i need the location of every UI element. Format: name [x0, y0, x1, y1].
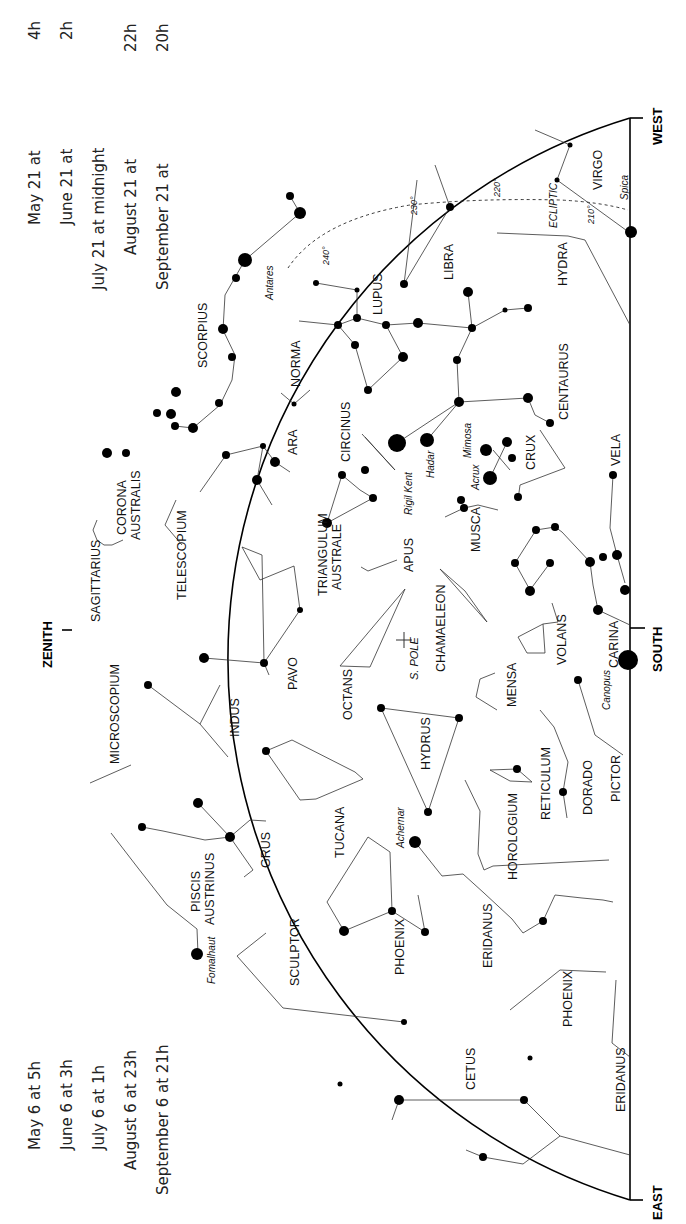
svg-text:June 21 at: June 21 at	[58, 149, 76, 226]
label-grus: GRUS	[259, 832, 273, 868]
star-hadar: Hadar	[425, 450, 436, 478]
label-telescopium: TELESCOPIUM	[175, 510, 189, 600]
south-label: SOUTH	[650, 627, 665, 673]
label-lupus: LUPUS	[371, 273, 385, 315]
svg-text:August 21 at: August 21 at	[122, 159, 140, 255]
label-circinus: CIRCINUS	[339, 402, 353, 462]
label-corona-1: CORONA	[115, 479, 129, 535]
svg-text:August 6 at 23h: August 6 at 23h	[122, 1050, 140, 1170]
label-eridanus-2: ERIDANUS	[614, 1047, 628, 1112]
label-eridanus: ERIDANUS	[481, 903, 495, 968]
label-hydrus: HYDRUS	[419, 717, 433, 770]
ecliptic-mark-210: 210°	[586, 205, 596, 225]
ecliptic-line	[288, 200, 628, 268]
label-corona-2: AUSTRALIS	[129, 471, 143, 540]
label-pavo: PAVO	[286, 657, 300, 690]
svg-text:May 21 at: May 21 at	[26, 150, 44, 225]
time-table-top: May 21 at June 21 at July 21 at midnight…	[26, 21, 172, 291]
star-acrux: Acrux	[470, 463, 481, 491]
star-achernar: Achernar	[395, 807, 406, 849]
label-cetus: CETUS	[464, 1048, 478, 1090]
label-norma: NORMA	[289, 340, 303, 387]
label-virgo: VIRGO	[591, 149, 605, 190]
star-rigil-kent: Rigil Kent	[403, 471, 414, 515]
label-sculptor: SCULPTOR	[288, 918, 302, 986]
label-mensa: MENSA	[505, 662, 519, 707]
star-spica: Spica	[619, 175, 630, 200]
label-ara: ARA	[286, 429, 300, 455]
svg-text:July 6 at 1h: July 6 at 1h	[90, 1065, 108, 1151]
label-centaurus: CENTAURUS	[557, 343, 571, 420]
west-label: WEST	[650, 107, 665, 145]
svg-text:May 6 at 5h: May 6 at 5h	[26, 1061, 44, 1150]
label-hydra: HYDRA	[556, 242, 570, 286]
label-piscis-2: AUSTRINUS	[203, 853, 217, 925]
svg-text:June 6 at 3h: June 6 at 3h	[58, 1059, 76, 1151]
east-label: EAST	[650, 1185, 665, 1220]
svg-text:4h: 4h	[26, 21, 44, 40]
constellation-labels: VIRGO LIBRA HYDRA LUPUS SCORPIUS NORMA C…	[89, 149, 628, 1112]
svg-text:September 6 at 21h: September 6 at 21h	[154, 1045, 172, 1195]
label-vela: VELA	[609, 433, 623, 466]
label-volans: VOLANS	[555, 614, 569, 665]
label-octans: OCTANS	[341, 669, 355, 720]
label-microscopium: MICROSCOPIUM	[108, 664, 122, 764]
star-fomalhaut: Fomalhaut	[206, 936, 217, 984]
label-sagittarius: SAGITTARIUS	[89, 540, 103, 622]
svg-text:20h: 20h	[154, 23, 172, 52]
label-phoenix: PHOENIX	[393, 918, 407, 975]
svg-text:September 21 at: September 21 at	[154, 163, 172, 290]
label-indus: INDUS	[228, 698, 242, 737]
svg-text:2h: 2h	[58, 21, 76, 40]
label-dorado: DORADO	[581, 760, 595, 815]
label-carina: CARINA	[607, 620, 621, 668]
label-reticulum: RETICULUM	[539, 747, 553, 820]
label-triangulum-1: TRIANGULUM	[316, 513, 330, 596]
label-triangulum-2: AUSTRALE	[330, 524, 344, 590]
label-piscis-1: PISCIS	[189, 871, 203, 912]
time-table-bottom: May 6 at 5h June 6 at 3h July 6 at 1h Au…	[26, 1045, 172, 1195]
star-mimosa: Mimosa	[462, 423, 473, 458]
star-chart: WEST EAST SOUTH ZENITH ECLIPTIC 210° 220…	[0, 0, 686, 1224]
svg-text:S. POLE: S. POLE	[408, 637, 420, 680]
ecliptic-label: ECLIPTIC	[548, 182, 559, 228]
svg-text:July 21 at midnight: July 21 at midnight	[90, 148, 108, 291]
label-musca: MUSCA	[469, 506, 483, 552]
south-pole-marker: S. POLE	[396, 632, 420, 680]
label-scorpius: SCORPIUS	[196, 303, 210, 368]
label-horologium: HOROLOGIUM	[506, 793, 520, 880]
label-apus: APUS	[402, 538, 416, 572]
star-antares: Antares	[264, 266, 275, 301]
label-crux: CRUX	[524, 434, 538, 470]
label-pictor: PICTOR	[609, 755, 623, 802]
label-chamaeleon: CHAMAELEON	[434, 584, 448, 672]
star-canopus: Canopus	[601, 670, 612, 710]
svg-text:22h: 22h	[122, 23, 140, 52]
label-phoenix-2: PHOENIX	[561, 970, 575, 1027]
ecliptic-mark-240: 240°	[321, 246, 331, 266]
label-tucana: TUCANA	[333, 806, 347, 858]
zenith-label: ZENITH	[40, 621, 55, 668]
ecliptic-mark-220: 220°	[492, 178, 502, 198]
label-libra: LIBRA	[442, 243, 456, 280]
